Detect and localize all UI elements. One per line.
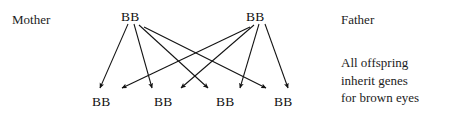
arrow-mother-to-child-1 <box>100 24 128 88</box>
caption-line-3: for brown eyes <box>341 89 419 107</box>
offspring-genotype-2: BB <box>154 95 172 109</box>
arrow-father-to-child-3 <box>240 24 259 88</box>
offspring-genotype-3: BB <box>216 95 234 109</box>
arrow-father-to-child-4 <box>265 24 288 88</box>
caption-line-2: inherit genes <box>341 72 419 90</box>
arrow-mother-to-child-4 <box>144 27 266 88</box>
father-label: Father <box>341 13 374 26</box>
mother-label: Mother <box>12 13 50 26</box>
parent-genotype-father: BB <box>246 10 264 24</box>
parent-genotype-mother: BB <box>121 10 139 24</box>
arrow-father-to-child-1 <box>122 27 250 88</box>
caption-block: All offspring inherit genes for brown ey… <box>341 54 419 107</box>
offspring-genotype-4: BB <box>274 95 292 109</box>
inheritance-diagram: Mother Father BB BB BB BB BB BB All offs… <box>0 0 453 120</box>
offspring-genotype-1: BB <box>92 95 110 109</box>
caption-line-1: All offspring <box>341 54 419 72</box>
